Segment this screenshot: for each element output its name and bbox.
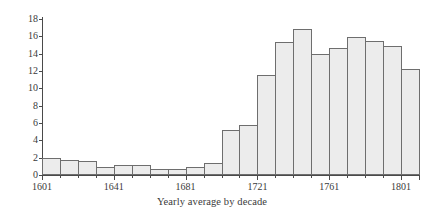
x-tick-mark bbox=[186, 175, 187, 180]
x-tick-mark bbox=[204, 175, 205, 178]
bar bbox=[78, 161, 97, 175]
x-tick-mark bbox=[365, 175, 366, 178]
x-tick-label: 1801 bbox=[379, 181, 423, 192]
y-tick-label: 12 bbox=[0, 66, 38, 76]
x-tick-mark bbox=[168, 175, 169, 178]
bar bbox=[114, 165, 133, 175]
x-tick-mark bbox=[347, 175, 348, 178]
y-tick-label: 0 bbox=[0, 170, 38, 180]
x-tick-mark bbox=[60, 175, 61, 178]
bar bbox=[96, 167, 115, 175]
x-tick-mark bbox=[257, 175, 258, 180]
y-tick-label: 18 bbox=[0, 14, 38, 24]
x-tick-label: 1681 bbox=[164, 181, 208, 192]
x-tick-mark bbox=[311, 175, 312, 178]
bar bbox=[383, 46, 402, 175]
x-axis-title: Yearly average by decade bbox=[0, 196, 424, 207]
x-tick-label: 1641 bbox=[92, 181, 136, 192]
bar bbox=[311, 54, 330, 175]
bar bbox=[132, 165, 151, 175]
x-tick-mark bbox=[78, 175, 79, 178]
bar bbox=[186, 167, 205, 175]
x-tick-mark bbox=[150, 175, 151, 178]
x-tick-mark bbox=[239, 175, 240, 178]
x-tick-mark bbox=[293, 175, 294, 178]
bar bbox=[293, 29, 312, 175]
x-tick-mark bbox=[114, 175, 115, 180]
bar bbox=[239, 125, 258, 175]
x-tick-mark bbox=[275, 175, 276, 178]
x-tick-mark bbox=[222, 175, 223, 178]
x-tick-mark bbox=[401, 175, 402, 180]
bar-series bbox=[42, 19, 419, 175]
bar bbox=[329, 48, 348, 175]
x-tick-label: 1761 bbox=[307, 181, 351, 192]
bar bbox=[365, 41, 384, 175]
bar bbox=[168, 169, 187, 175]
x-tick-mark bbox=[419, 175, 420, 180]
x-tick-label: 1721 bbox=[235, 181, 279, 192]
y-tick-label: 8 bbox=[0, 101, 38, 111]
x-tick-mark bbox=[96, 175, 97, 178]
y-tick-label: 10 bbox=[0, 83, 38, 93]
y-tick-label: 16 bbox=[0, 31, 38, 41]
x-tick-mark bbox=[132, 175, 133, 178]
bar bbox=[150, 169, 169, 176]
x-tick-mark bbox=[329, 175, 330, 180]
y-tick-label: 14 bbox=[0, 49, 38, 59]
bar bbox=[275, 42, 294, 175]
y-tick-label: 4 bbox=[0, 135, 38, 145]
x-tick-mark bbox=[42, 175, 43, 180]
x-tick-label: 1601 bbox=[20, 181, 64, 192]
histogram-chart: Tons per year 024681012141618 1601164116… bbox=[0, 0, 424, 219]
bar bbox=[42, 158, 61, 175]
bar bbox=[401, 69, 420, 175]
y-tick-label: 6 bbox=[0, 118, 38, 128]
y-tick-label: 2 bbox=[0, 153, 38, 163]
bar bbox=[222, 130, 241, 175]
bar bbox=[204, 163, 223, 175]
x-tick-mark bbox=[383, 175, 384, 178]
bar bbox=[60, 160, 79, 175]
bar bbox=[347, 37, 366, 175]
bar bbox=[257, 75, 276, 175]
